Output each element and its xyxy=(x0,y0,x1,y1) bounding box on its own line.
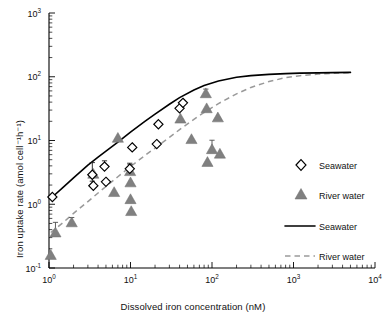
filled-triangle-icon xyxy=(295,189,307,200)
legend-label-seawater-line: Seawater xyxy=(319,222,357,232)
legend-label-riverwater-line: River water xyxy=(319,252,365,262)
data-point-diamond xyxy=(89,181,98,190)
chart-legend: Seawater River water Seawater River wate… xyxy=(285,160,365,262)
legend-label-seawater-marker: Seawater xyxy=(319,161,357,171)
chart-canvas: 10-1100101102103 100101102103104 Seawate… xyxy=(0,0,386,315)
data-point-diamond xyxy=(152,139,161,148)
x-axis-tick-labels: 100101102103104 xyxy=(42,273,382,285)
svg-text:100: 100 xyxy=(27,198,41,210)
svg-text:101: 101 xyxy=(124,273,138,285)
legend-item-riverwater-line: River water xyxy=(285,252,365,262)
data-point-triangle xyxy=(200,88,211,98)
legend-item-riverwater-marker: River water xyxy=(295,189,365,201)
svg-text:103: 103 xyxy=(287,273,301,285)
svg-text:104: 104 xyxy=(368,273,382,285)
data-point-diamond xyxy=(128,143,137,152)
svg-text:102: 102 xyxy=(205,273,219,285)
svg-text:100: 100 xyxy=(42,273,56,285)
data-point-diamond xyxy=(154,120,163,129)
data-point-triangle xyxy=(125,194,136,204)
legend-item-seawater-marker: Seawater xyxy=(296,160,357,171)
data-point-triangle xyxy=(126,206,137,216)
y-axis-tick-labels: 10-1100101102103 xyxy=(25,7,41,274)
data-point-diamond xyxy=(101,177,110,186)
data-point-triangle xyxy=(206,144,217,154)
x-axis-title: Dissolved iron concentration (nM) xyxy=(0,301,386,312)
seawater-data-points xyxy=(48,98,188,201)
y-axis-title: Iron uptake rate (amol cell⁻¹h⁻¹) xyxy=(14,120,25,258)
open-diamond-icon xyxy=(296,160,306,171)
riverwater-data-points xyxy=(45,88,225,260)
data-point-triangle xyxy=(186,134,197,144)
data-point-triangle xyxy=(109,187,120,197)
svg-text:101: 101 xyxy=(27,134,41,146)
legend-label-riverwater-marker: River water xyxy=(319,191,365,201)
data-point-triangle xyxy=(175,113,186,123)
data-point-triangle xyxy=(125,177,136,187)
figure-container: 10-1100101102103 100101102103104 Seawate… xyxy=(0,0,386,315)
svg-text:10-1: 10-1 xyxy=(25,262,41,274)
data-point-triangle xyxy=(112,132,123,142)
svg-text:102: 102 xyxy=(27,70,41,82)
data-point-triangle xyxy=(45,250,56,260)
data-point-triangle xyxy=(212,112,223,122)
x-axis-ticks xyxy=(49,262,375,268)
data-point-diamond xyxy=(100,162,109,171)
legend-item-seawater-line: Seawater xyxy=(285,222,357,232)
svg-text:103: 103 xyxy=(27,7,41,19)
data-point-triangle xyxy=(202,157,213,167)
